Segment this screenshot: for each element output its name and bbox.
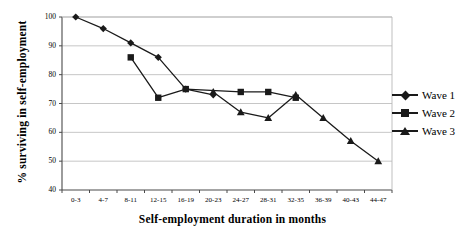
data-point-wave-3: [209, 88, 217, 95]
x-tick-label: 44-47: [358, 196, 398, 204]
data-point-wave-3: [237, 108, 245, 115]
data-point-wave-2: [128, 54, 134, 60]
y-tick-label: 80: [30, 71, 56, 79]
legend-item-wave-2: Wave 2: [392, 104, 455, 122]
legend-item-wave-3: Wave 3: [392, 122, 455, 140]
legend-marker-triangle-icon: [392, 124, 418, 138]
legend-label-wave-3: Wave 3: [422, 125, 455, 137]
y-tick-label: 60: [30, 128, 56, 136]
series-line-wave-3: [213, 92, 378, 161]
series-line-wave-1: [76, 17, 214, 95]
x-axis-title: Self-employment duration in months: [60, 213, 405, 225]
y-tick-label: 50: [30, 157, 56, 165]
data-point-wave-1: [72, 13, 79, 20]
legend-label-wave-1: Wave 1: [422, 89, 455, 101]
data-point-wave-2: [265, 89, 271, 95]
legend-label-wave-2: Wave 2: [422, 107, 455, 119]
legend-marker-diamond-icon: [392, 88, 418, 102]
chart-legend: Wave 1 Wave 2 Wave 3: [392, 86, 455, 140]
data-point-wave-2: [155, 95, 161, 101]
y-tick-label: 90: [30, 42, 56, 50]
y-tick-label: 40: [30, 186, 56, 194]
data-point-wave-2: [183, 86, 189, 92]
legend-item-wave-1: Wave 1: [392, 86, 455, 104]
y-tick-label: 70: [30, 100, 56, 108]
data-point-wave-3: [292, 91, 300, 98]
data-point-wave-3: [374, 157, 382, 164]
data-point-wave-2: [238, 89, 244, 95]
y-tick-label: 100: [30, 13, 56, 21]
y-axis-title: % surviving in self-employment: [16, 2, 28, 202]
legend-marker-square-icon: [392, 106, 418, 120]
chart-container: % surviving in self-employment Self-empl…: [0, 0, 475, 240]
data-point-wave-1: [100, 25, 107, 32]
